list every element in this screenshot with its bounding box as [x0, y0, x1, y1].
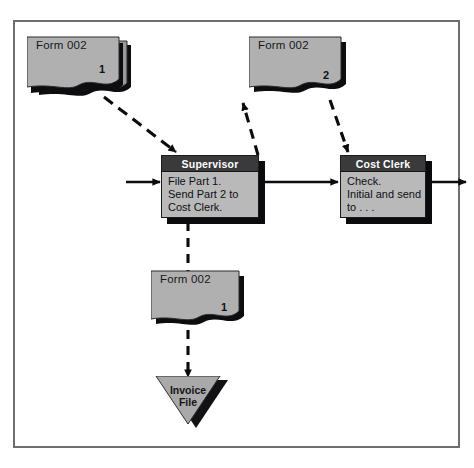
- process-box-supervisor[interactable]: Supervisor File Part 1. Send Part 2 to C…: [161, 155, 259, 218]
- supervisor-box-body: Supervisor File Part 1. Send Part 2 to C…: [161, 155, 259, 218]
- form-bottom-copy-1: 1: [221, 301, 227, 313]
- file-symbol-invoice-file[interactable]: Invoice File: [152, 376, 230, 432]
- supervisor-box-text: File Part 1. Send Part 2 to Cost Clerk.: [162, 172, 258, 217]
- supervisor-text-line-3: Cost Clerk.: [168, 201, 253, 214]
- invoice-file-label: Invoice File: [152, 385, 224, 408]
- cost-clerk-text-line-3: to . . .: [347, 201, 420, 214]
- cost-clerk-box-text: Check. Initial and send to . . .: [341, 172, 425, 217]
- form-top-left-copy-1: 1: [99, 63, 105, 75]
- supervisor-box-header: Supervisor: [162, 156, 258, 172]
- form-top-right-copy-2: 2: [323, 69, 329, 81]
- form-bottom-label: Form 002: [160, 273, 211, 285]
- document-form-bottom[interactable]: Form 002 1: [151, 267, 251, 335]
- document-form-top-left[interactable]: Form 002 1 2: [27, 33, 139, 105]
- form-top-left-copy-2: 2: [112, 80, 118, 92]
- invoice-file-line-2: File: [152, 397, 224, 409]
- document-form-top-right[interactable]: Form 002 2: [249, 33, 353, 103]
- supervisor-text-line-1: File Part 1.: [168, 175, 253, 188]
- diagram-canvas: Form 002 1 2 Form 002 2 Form 002 1 Super…: [0, 0, 474, 468]
- cost-clerk-box-header: Cost Clerk: [341, 156, 425, 172]
- cost-clerk-text-line-2: Initial and send: [347, 188, 420, 201]
- process-box-cost-clerk[interactable]: Cost Clerk Check. Initial and send to . …: [340, 155, 426, 218]
- cost-clerk-text-line-1: Check.: [347, 175, 420, 188]
- invoice-file-line-1: Invoice: [152, 385, 224, 397]
- supervisor-text-line-2: Send Part 2 to: [168, 188, 253, 201]
- form-top-left-label: Form 002: [36, 39, 87, 51]
- cost-clerk-box-body: Cost Clerk Check. Initial and send to . …: [340, 155, 426, 218]
- form-top-right-label: Form 002: [258, 39, 309, 51]
